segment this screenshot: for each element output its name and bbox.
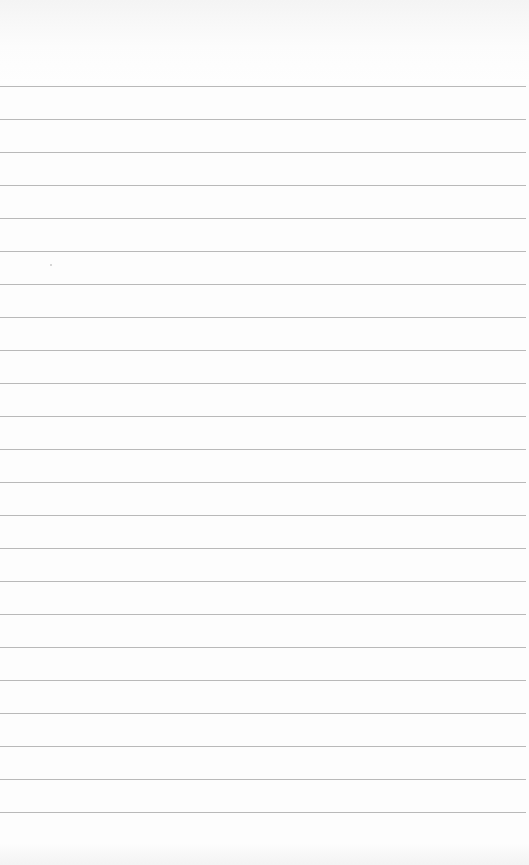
ruled-line <box>0 284 526 285</box>
ruled-line <box>0 152 526 153</box>
ruled-line <box>0 515 526 516</box>
ruled-line <box>0 647 526 648</box>
ruled-line <box>0 251 526 252</box>
ruled-line <box>0 482 526 483</box>
ruled-line <box>0 416 526 417</box>
ruled-line <box>0 581 526 582</box>
ruled-line <box>0 614 526 615</box>
page-header-area <box>0 0 529 84</box>
ruled-line <box>0 119 526 120</box>
ruled-line <box>0 350 526 351</box>
page-footer-area <box>0 843 529 865</box>
ruled-line <box>0 383 526 384</box>
ruled-line <box>0 812 526 813</box>
ruled-line <box>0 185 526 186</box>
ruled-line <box>0 713 526 714</box>
ruled-line <box>0 86 526 87</box>
ruled-line <box>0 317 526 318</box>
ruled-line <box>0 779 526 780</box>
ruled-line <box>0 680 526 681</box>
ruled-line <box>0 218 526 219</box>
notepad-page <box>0 0 529 865</box>
ruled-line <box>0 449 526 450</box>
paper-speck <box>50 264 52 266</box>
ruled-line <box>0 548 526 549</box>
ruled-line <box>0 746 526 747</box>
